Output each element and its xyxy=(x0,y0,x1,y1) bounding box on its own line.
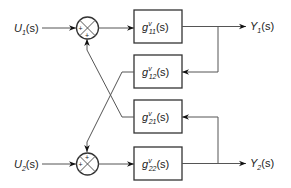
summing-junction-2: + + xyxy=(77,153,99,175)
sum1-sign-left: + xyxy=(79,25,83,32)
block-g11: gv11(s) xyxy=(134,10,182,43)
output-label-y2: Y2(s) xyxy=(250,157,274,171)
svg-text:gv22(s): gv22(s) xyxy=(142,157,169,172)
block-g22: gv22(s) xyxy=(134,147,182,180)
svg-text:gv12(s): gv12(s) xyxy=(142,65,169,80)
sum1-sign-bottom: + xyxy=(85,32,89,39)
wire-y1-to-g12 xyxy=(182,27,218,73)
input-label-u1: U1(s) xyxy=(14,22,39,36)
svg-text:gv21(s): gv21(s) xyxy=(142,110,169,125)
sum2-sign-left: + xyxy=(79,161,83,168)
block-g12: gv12(s) xyxy=(134,55,182,88)
block-g21: gv21(s) xyxy=(134,100,182,133)
sum2-sign-top: + xyxy=(85,154,89,161)
summing-junction-1: + + xyxy=(77,17,99,39)
output-label-y1: Y1(s) xyxy=(250,20,274,34)
input-label-u2: U2(s) xyxy=(14,158,39,172)
wire-y2-to-g21 xyxy=(182,117,218,164)
block-diagram: U1(s) + + gv11(s) Y1(s) gv12(s) gv21(s) … xyxy=(0,0,291,188)
svg-text:gv11(s): gv11(s) xyxy=(142,20,169,35)
wire-g21-to-sum1 xyxy=(87,39,134,117)
wire-g12-to-sum2 xyxy=(87,72,134,152)
